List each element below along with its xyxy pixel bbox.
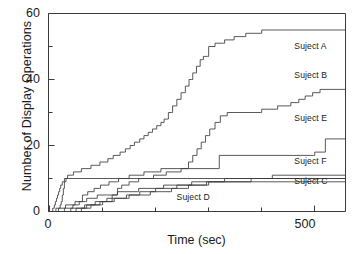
plot-area: [0, 0, 357, 254]
series-label-suject-b: Suject B: [294, 71, 327, 80]
series-label-suject-d: Suject D: [177, 193, 210, 202]
series-label-suject-e: Suject E: [294, 114, 327, 123]
series-label-suject-c: Suject C: [294, 177, 327, 186]
series-label-suject-a: Suject A: [294, 42, 326, 51]
chart-figure: Number of Display Operations Time (sec) …: [0, 0, 357, 254]
series-label-suject-f: Suject F: [294, 157, 326, 166]
